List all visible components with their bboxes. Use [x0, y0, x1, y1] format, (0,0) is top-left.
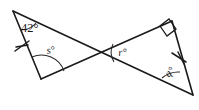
transversal-line-lower-left-to-upper-right: [41, 21, 172, 79]
geometry-diagram: [0, 0, 199, 110]
label-angle-s: s°: [46, 45, 56, 56]
geometry-figure: 42° s° r° q°: [0, 0, 199, 110]
right-triangle-marked-side: [172, 21, 193, 95]
label-angle-r: r°: [118, 47, 127, 58]
parallel-tick-left-barb-icon: [16, 45, 28, 47]
label-known-angle: 42°: [21, 22, 39, 35]
